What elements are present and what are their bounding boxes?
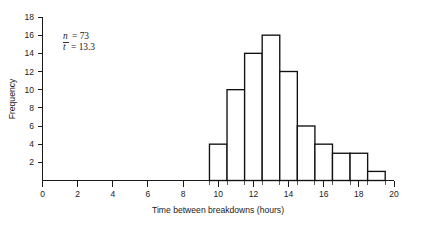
histogram-bar	[209, 144, 227, 180]
y-tick-label: 4	[29, 139, 34, 149]
x-tick-label: 18	[354, 189, 364, 199]
x-tick-label: 4	[110, 189, 115, 199]
histogram-bar	[297, 126, 315, 181]
histogram-bar	[332, 153, 350, 180]
x-tick-label: 14	[284, 189, 294, 199]
y-tick-label: 8	[29, 103, 34, 113]
annotation-n-symbol: n	[63, 31, 68, 41]
y-tick-label: 10	[25, 85, 35, 95]
histogram-bar	[368, 171, 386, 180]
chart-canvas: 24681012141618 Frequency 024681012141618…	[0, 0, 423, 227]
histogram-bar	[245, 53, 263, 180]
x-tick-label: 8	[181, 189, 186, 199]
x-tick-label: 0	[40, 189, 45, 199]
y-tick-label: 16	[25, 30, 35, 40]
histogram-bar	[315, 144, 333, 180]
y-tick-label: 6	[29, 121, 34, 131]
histogram-bar	[227, 90, 245, 181]
x-tick-label: 12	[249, 189, 259, 199]
x-tick-label: 2	[75, 189, 80, 199]
y-tick-label: 18	[25, 12, 35, 22]
x-tick-label: 20	[389, 189, 399, 199]
annotation-n-value: = 73	[72, 31, 89, 41]
x-tick-label: 16	[319, 189, 329, 199]
histogram-bar	[262, 35, 280, 180]
annotation-mean-value: = 13.3	[71, 42, 95, 52]
y-axis-title: Frequency	[7, 78, 17, 119]
x-tick-label: 10	[214, 189, 224, 199]
x-axis-title: Time between breakdowns (hours)	[152, 205, 284, 215]
histogram-bar	[350, 153, 368, 180]
y-tick-label: 2	[29, 157, 34, 167]
y-tick-label: 12	[25, 67, 35, 77]
histogram-chart: 24681012141618 Frequency 024681012141618…	[0, 0, 423, 227]
annotation-mean-symbol: t	[63, 42, 66, 52]
x-tick-label: 6	[146, 189, 151, 199]
histogram-bar	[280, 72, 298, 181]
y-tick-label: 14	[25, 48, 35, 58]
